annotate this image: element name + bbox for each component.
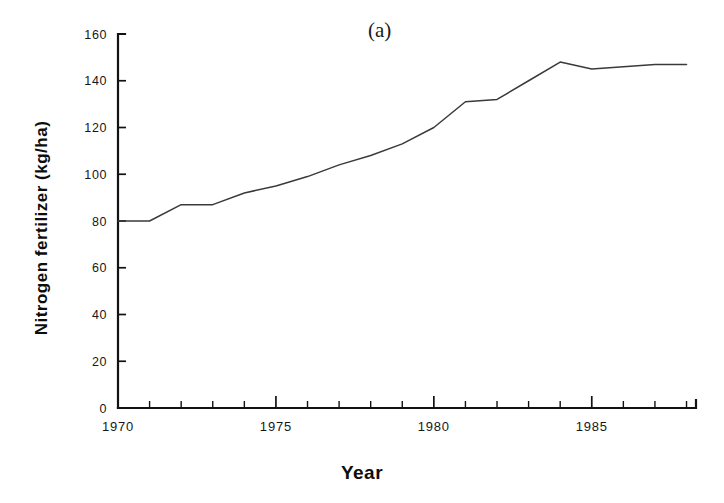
y-tick-label: 100 — [84, 168, 107, 182]
data-series-line — [118, 62, 687, 221]
x-tick-label: 1975 — [260, 419, 292, 434]
x-tick-label: 1970 — [102, 419, 134, 434]
figure-panel: Nitrogen fertilizer (kg/ha) Year (a) 020… — [0, 0, 724, 503]
x-axis-line — [118, 400, 696, 408]
y-tick-label: 80 — [92, 215, 107, 229]
y-tick-label: 60 — [92, 261, 107, 275]
y-tick-label: 140 — [84, 74, 107, 88]
y-tick-label: 0 — [99, 402, 107, 416]
line-chart-plot: 020406080100120140160 1970197519801985 — [0, 0, 724, 503]
x-tick-label: 1980 — [418, 419, 450, 434]
y-tick-label: 40 — [92, 308, 107, 322]
y-tick-label: 160 — [84, 28, 107, 42]
y-tick-label: 120 — [84, 121, 107, 135]
x-tick-label: 1985 — [576, 419, 608, 434]
y-tick-label: 20 — [92, 355, 107, 369]
x-axis-ticks: 1970197519801985 — [102, 396, 687, 434]
